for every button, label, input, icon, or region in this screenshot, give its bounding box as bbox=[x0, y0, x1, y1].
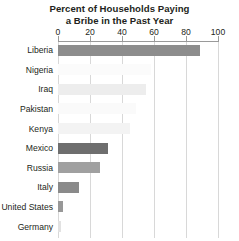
bar-italy bbox=[58, 182, 79, 193]
category-label-germany: Germany bbox=[0, 222, 53, 232]
bar-iraq bbox=[58, 84, 146, 95]
bar-row: Germany bbox=[0, 218, 239, 238]
chart-title-line-2: a Bribe in the Past Year bbox=[0, 15, 239, 27]
bar-united-states bbox=[58, 201, 63, 212]
category-label-iraq: Iraq bbox=[0, 84, 53, 94]
bar-row: Iraq bbox=[0, 81, 239, 101]
category-label-russia: Russia bbox=[0, 163, 53, 173]
bar-row: Russia bbox=[0, 160, 239, 180]
bar-pakistan bbox=[58, 103, 136, 114]
category-label-nigeria: Nigeria bbox=[0, 65, 53, 75]
category-label-mexico: Mexico bbox=[0, 143, 53, 153]
bar-row: Nigeria bbox=[0, 62, 239, 82]
x-tick-mark-20 bbox=[90, 36, 91, 41]
bar-row: Italy bbox=[0, 179, 239, 199]
category-label-italy: Italy bbox=[0, 182, 53, 192]
bar-liberia bbox=[58, 45, 200, 56]
bar-row: United States bbox=[0, 199, 239, 219]
category-label-pakistan: Pakistan bbox=[0, 104, 53, 114]
x-tick-mark-100 bbox=[218, 36, 219, 41]
bar-kenya bbox=[58, 123, 130, 134]
x-tick-mark-80 bbox=[186, 36, 187, 41]
chart-title-line-1: Percent of Households Paying bbox=[0, 3, 239, 15]
category-label-kenya: Kenya bbox=[0, 124, 53, 134]
x-axis-tick-labels: 020406080100 bbox=[0, 27, 239, 39]
bar-germany bbox=[58, 221, 61, 232]
category-label-liberia: Liberia bbox=[0, 45, 53, 55]
bar-mexico bbox=[58, 143, 108, 154]
x-tick-mark-60 bbox=[154, 36, 155, 41]
bar-nigeria bbox=[58, 64, 151, 75]
bar-row: Liberia bbox=[0, 42, 239, 62]
bar-chart: Percent of Households Paying a Bribe in … bbox=[0, 0, 239, 241]
bar-row: Pakistan bbox=[0, 101, 239, 121]
x-tick-mark-0 bbox=[58, 36, 59, 41]
x-tick-mark-40 bbox=[122, 36, 123, 41]
chart-title: Percent of Households Paying a Bribe in … bbox=[0, 3, 239, 26]
bar-row: Mexico bbox=[0, 140, 239, 160]
category-label-united-states: United States bbox=[0, 202, 53, 212]
bar-row: Kenya bbox=[0, 120, 239, 140]
bar-russia bbox=[58, 162, 100, 173]
